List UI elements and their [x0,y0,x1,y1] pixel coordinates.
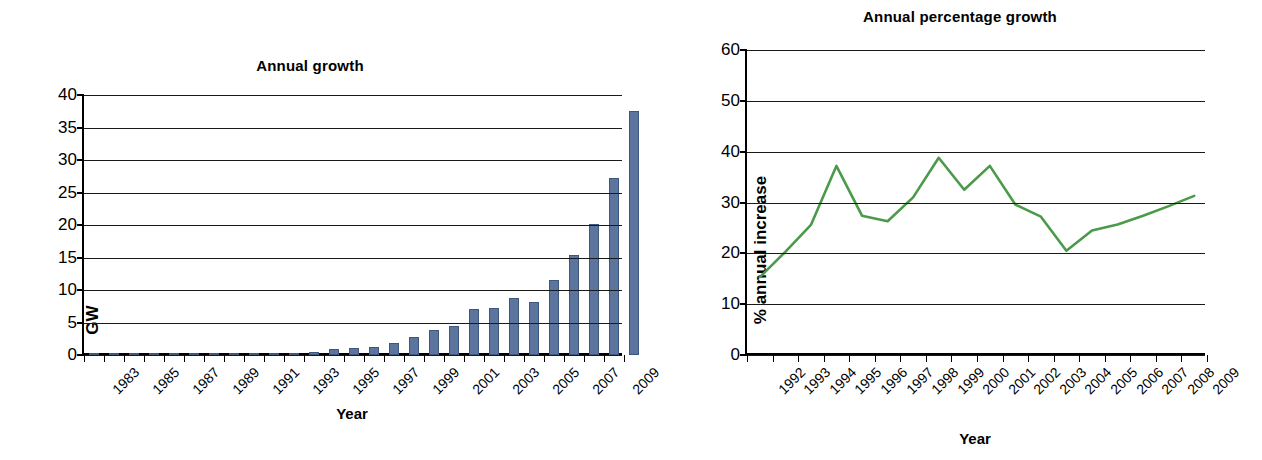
x-tick-label: 1999 [429,364,462,397]
x-tick-label: 2005 [549,364,582,397]
y-tick-mark [77,322,84,324]
x-tick-mark [444,355,445,362]
y-tick-label: 35 [37,118,77,138]
x-tick-mark [184,355,185,362]
gridline [84,160,622,161]
x-tick-mark [624,355,625,362]
y-tick-label: 10 [37,280,77,300]
y-tick-label: 20 [700,243,740,263]
x-tick-label: 1998 [928,364,961,397]
x-tick-label: 2000 [979,364,1012,397]
x-tick-mark [404,355,405,362]
x-tick-mark [900,355,901,362]
left-plot-area: GW 0510152025303540 19831985198719891991… [82,95,622,355]
x-tick-mark [1181,355,1182,362]
bar [429,330,438,355]
x-tick-mark [773,355,774,362]
y-tick-label: 60 [700,40,740,60]
x-tick-label: 2001 [1005,364,1038,397]
x-tick-label: 2006 [1133,364,1166,397]
x-tick-label: 2002 [1030,364,1063,397]
x-tick-mark [951,355,952,362]
bar [389,343,398,355]
bar [349,348,358,355]
x-tick-mark [344,355,345,362]
x-tick-label: 2003 [1056,364,1089,397]
bar [449,326,458,355]
y-tick-mark [740,303,747,305]
x-tick-mark [504,355,505,362]
x-tick-label: 1985 [149,364,182,397]
y-tick-mark [77,224,84,226]
x-tick-mark [1054,355,1055,362]
gridline [747,101,1205,102]
x-tick-mark [284,355,285,362]
x-tick-label: 2009 [629,364,662,397]
gridline [84,258,622,259]
y-tick-label: 30 [37,150,77,170]
y-tick-mark [77,354,84,356]
x-tick-label: 1994 [826,364,859,397]
bar [489,308,498,355]
x-tick-label: 1997 [389,364,422,397]
y-tick-mark [77,94,84,96]
x-tick-mark [84,355,85,362]
gridline [747,253,1205,254]
bar [369,347,378,355]
right-plot-area: % annual increase 0102030405060 19921993… [745,50,1205,355]
gridline [84,225,622,226]
x-tick-mark [849,355,850,362]
y-tick-mark [77,192,84,194]
bar [529,302,538,355]
y-tick-mark [77,159,84,161]
bar [409,337,418,355]
x-tick-label: 2005 [1107,364,1140,397]
x-tick-mark [544,355,545,362]
x-tick-label: 1993 [309,364,342,397]
x-tick-mark [304,355,305,362]
bar [469,309,478,355]
x-tick-mark [384,355,385,362]
x-tick-label: 1996 [877,364,910,397]
x-tick-mark [144,355,145,362]
bar [509,298,518,355]
y-tick-label: 20 [37,215,77,235]
line-path [760,158,1194,277]
x-tick-label: 1983 [109,364,142,397]
x-tick-mark [604,355,605,362]
y-tick-mark [77,127,84,129]
x-tick-mark [1207,355,1208,362]
x-tick-mark [1130,355,1131,362]
bar [609,178,618,355]
gridline [747,50,1205,51]
panel-annual-percentage-growth: Annual percentage growth % annual increa… [660,0,1262,460]
x-tick-mark [564,355,565,362]
x-tick-mark [124,355,125,362]
x-tick-mark [364,355,365,362]
y-tick-label: 15 [37,248,77,268]
y-tick-mark [77,289,84,291]
gridline [747,203,1205,204]
x-tick-mark [977,355,978,362]
y-tick-label: 5 [37,313,77,333]
x-tick-mark [424,355,425,362]
y-tick-mark [740,151,747,153]
x-tick-label: 1997 [903,364,936,397]
x-tick-mark [1079,355,1080,362]
x-tick-label: 1992 [775,364,808,397]
y-tick-mark [740,202,747,204]
x-tick-mark [926,355,927,362]
y-tick-label: 0 [37,345,77,365]
panel-annual-growth: Annual growth GW 0510152025303540 198319… [0,0,660,460]
left-x-axis-label: Year [82,405,622,422]
y-tick-mark [740,252,747,254]
gridline [747,152,1205,153]
x-tick-mark [204,355,205,362]
x-tick-mark [224,355,225,362]
x-tick-label: 2001 [469,364,502,397]
x-tick-mark [244,355,245,362]
right-x-axis-label: Year [745,430,1205,447]
x-tick-mark [1105,355,1106,362]
x-tick-mark [264,355,265,362]
x-tick-mark [1028,355,1029,362]
